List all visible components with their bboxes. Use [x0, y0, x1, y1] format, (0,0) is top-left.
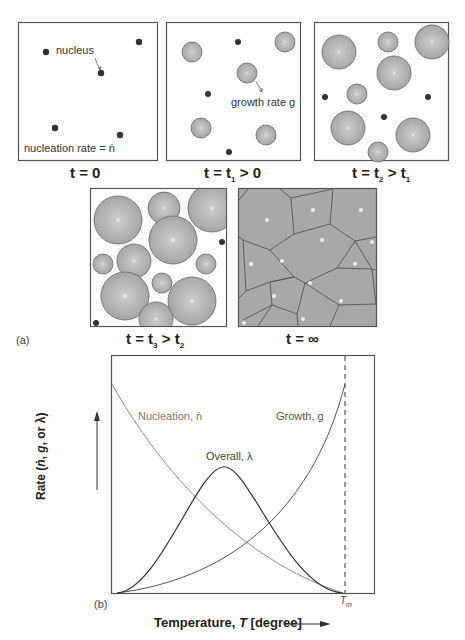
- panel-b-tag: (b): [94, 598, 107, 610]
- overall-label: Overall, λ: [206, 450, 252, 462]
- y-axis-label: Rate (ṅ, g, or λ): [34, 413, 48, 500]
- frame-t3: [91, 184, 237, 336]
- growth-rate-label: growth rate g: [231, 96, 295, 108]
- x-axis-label: Temperature, T [degree]: [154, 615, 302, 630]
- nucleus-label: nucleus: [56, 44, 94, 56]
- caption-tinf: t = ∞: [286, 330, 319, 347]
- caption-t2: t = t2 > t1: [352, 164, 410, 184]
- frame-t2: [315, 23, 450, 163]
- frame-t1: [167, 23, 301, 161]
- caption-t3: t = t3 > t2: [126, 330, 184, 350]
- frame-tinf: [239, 189, 377, 327]
- caption-t0: t = 0: [70, 164, 100, 181]
- rate-chart: [94, 356, 375, 628]
- nucleation-label: Nucleation, ṅ: [138, 410, 202, 422]
- panel-a-tag: (a): [16, 334, 29, 346]
- tm-label: Tm: [340, 595, 352, 608]
- nucleation-rate-label: nucleation rate = ṅ: [24, 142, 115, 154]
- caption-t1: t = t1 > 0: [204, 164, 261, 184]
- growth-label: Growth, g: [276, 410, 324, 422]
